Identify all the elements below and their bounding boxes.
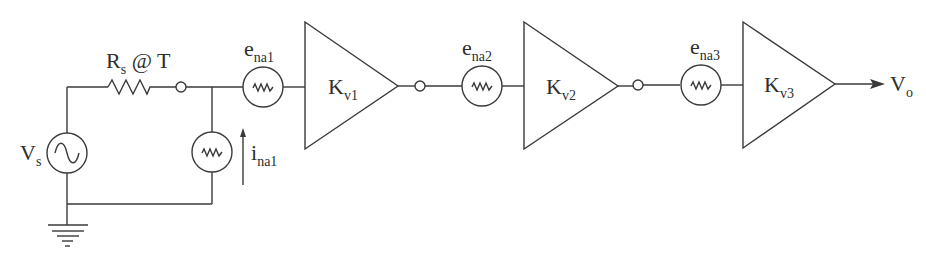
noise-source-icon <box>192 132 232 172</box>
circuit-diagram: Vs Rs @ T ina1 ena1 Kv1 ena2 <box>0 0 926 257</box>
noise-source-icon <box>243 67 283 107</box>
output-label: Vo <box>890 71 913 100</box>
noise-voltage-label: ena3 <box>690 34 720 63</box>
noise-voltage-label: ena2 <box>462 35 492 64</box>
gain-label: Kv3 <box>764 72 794 101</box>
source-label: Vs <box>20 140 41 169</box>
resistor-icon <box>108 80 176 94</box>
node-terminal-icon <box>176 82 186 92</box>
gain-label: Kv1 <box>328 74 358 103</box>
amplifier-icon <box>524 22 618 149</box>
node-terminal-icon <box>633 80 643 90</box>
noise-source-icon <box>462 66 502 106</box>
ground-icon <box>48 225 88 246</box>
node-terminal-icon <box>415 81 425 91</box>
amplifier-icon <box>743 22 835 148</box>
amplifier-icon <box>305 22 398 149</box>
current-noise-label: ina1 <box>251 140 277 169</box>
gain-label: Kv2 <box>546 74 576 103</box>
stage-3: ena3 Kv3 <box>681 22 885 148</box>
stage-2: ena2 Kv2 <box>462 22 680 149</box>
current-arrow-icon <box>240 128 246 185</box>
input-loop <box>67 87 212 225</box>
resistor-label: Rs @ T <box>106 48 171 77</box>
ac-source-icon <box>47 133 87 173</box>
stage-1: ena1 Kv1 <box>243 22 462 149</box>
noise-source-icon <box>681 65 721 105</box>
noise-voltage-label: ena1 <box>244 36 274 65</box>
